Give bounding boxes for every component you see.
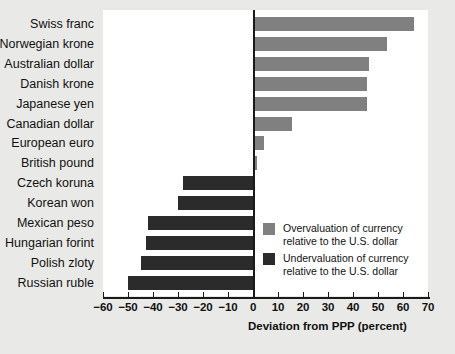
category-label-european-euro: European euro <box>11 137 94 150</box>
x-tick-20 <box>303 292 304 299</box>
ppp-deviation-chart: Swiss francNorwegian kroneAustralian dol… <box>0 0 455 354</box>
bar-swiss-franc <box>254 17 414 31</box>
bar-hungarian-forint <box>146 236 254 250</box>
category-label-norwegian-krone: Norwegian krone <box>0 38 94 51</box>
x-tick--20 <box>203 292 204 299</box>
x-tick-10 <box>278 292 279 299</box>
x-axis-title: Deviation from PPP (percent) <box>248 320 407 332</box>
legend-label-overvaluation-line1: Overvaluation of currency <box>283 222 408 235</box>
x-tick--30 <box>178 292 179 299</box>
bar-norwegian-krone <box>254 37 387 51</box>
legend-item-undervaluation: Undervaluation of currency relative to t… <box>263 252 408 278</box>
bar-danish-krone <box>254 77 367 91</box>
legend-swatch-overvaluation-icon <box>263 223 275 235</box>
category-label-swiss-franc: Swiss franc <box>30 18 94 31</box>
legend-swatch-undervaluation-icon <box>263 253 275 265</box>
x-tick-30 <box>328 292 329 299</box>
x-tick-label-70: 70 <box>408 301 448 313</box>
category-label-polish-zloty: Polish zloty <box>31 257 94 270</box>
category-label-australian-dollar: Australian dollar <box>4 58 94 71</box>
x-tick--40 <box>153 292 154 299</box>
x-tick-60 <box>403 292 404 299</box>
bar-canadian-dollar <box>254 117 292 131</box>
bar-korean-won <box>178 196 253 210</box>
legend-label-undervaluation-line2: relative to the U.S. dollar <box>283 265 408 278</box>
x-tick-50 <box>378 292 379 299</box>
x-tick-0 <box>253 292 254 299</box>
category-label-japanese-yen: Japanese yen <box>16 98 94 111</box>
legend-item-overvaluation: Overvaluation of currency relative to th… <box>263 222 408 248</box>
category-label-hungarian-forint: Hungarian forint <box>5 237 94 250</box>
bar-australian-dollar <box>254 57 369 71</box>
bar-czech-koruna <box>183 176 253 190</box>
x-tick--60 <box>103 292 104 299</box>
legend-label-undervaluation-line1: Undervaluation of currency <box>283 252 408 265</box>
x-tick-70 <box>428 292 429 299</box>
x-tick-40 <box>353 292 354 299</box>
zero-axis-line <box>253 10 255 298</box>
bar-russian-ruble <box>128 276 253 290</box>
category-label-mexican-peso: Mexican peso <box>17 217 94 230</box>
category-label-czech-koruna: Czech koruna <box>17 177 94 190</box>
x-tick--50 <box>128 292 129 299</box>
bar-european-euro <box>254 136 264 150</box>
bar-mexican-peso <box>148 216 253 230</box>
bar-polish-zloty <box>141 256 254 270</box>
legend-label-overvaluation-line2: relative to the U.S. dollar <box>283 235 408 248</box>
category-label-canadian-dollar: Canadian dollar <box>6 118 94 131</box>
legend: Overvaluation of currency relative to th… <box>263 222 408 282</box>
x-tick--10 <box>228 292 229 299</box>
category-label-russian-ruble: Russian ruble <box>18 277 94 290</box>
bar-japanese-yen <box>254 97 367 111</box>
category-label-korean-won: Korean won <box>27 197 94 210</box>
category-label-danish-krone: Danish krone <box>20 78 94 91</box>
category-label-british-pound: British pound <box>21 157 94 170</box>
